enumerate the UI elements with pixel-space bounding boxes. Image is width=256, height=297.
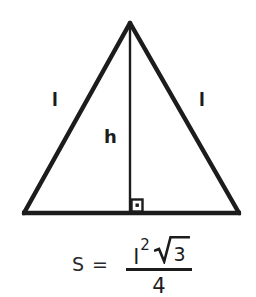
formula-radicand-3: 3 — [173, 243, 185, 264]
triangle-side-right — [130, 23, 239, 213]
formula-exponent-2: 2 — [140, 238, 150, 253]
formula-denominator: 4 — [152, 276, 165, 297]
area-formula: S = l 2 3 4 — [0, 230, 256, 297]
formula-variable-l: l — [133, 246, 139, 268]
triangle-diagram — [0, 0, 256, 230]
side-label-left: l — [52, 92, 58, 109]
side-label-right: l — [199, 92, 205, 109]
formula-fraction: l 2 3 4 — [126, 230, 192, 297]
formula-numerator: l 2 3 — [127, 230, 191, 268]
figure-root: l l h S = l 2 3 4 — [0, 0, 256, 297]
formula-left-hand-side: S = — [72, 255, 109, 274]
height-label: h — [104, 128, 117, 146]
triangle-side-left — [24, 23, 130, 213]
right-angle-marker — [132, 200, 143, 212]
square-root-icon: 3 — [154, 234, 190, 267]
